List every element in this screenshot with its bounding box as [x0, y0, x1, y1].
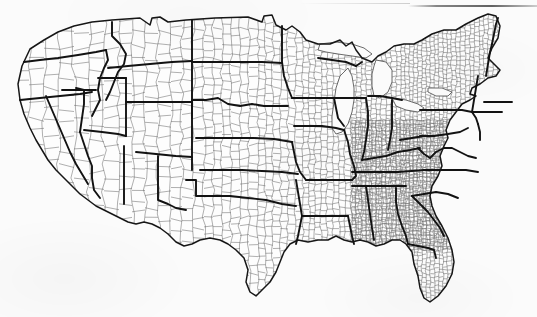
- us-county-map: [0, 0, 537, 317]
- state-line-de-md: [478, 124, 480, 140]
- state-line-nd-sd: [192, 62, 282, 63]
- state-line-nj-ny: [472, 112, 478, 124]
- map-page: [0, 0, 537, 317]
